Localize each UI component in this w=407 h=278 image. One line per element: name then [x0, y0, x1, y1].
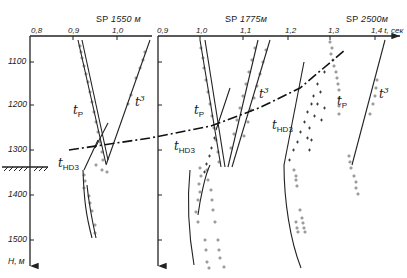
- panel-title-sp1550: SP 1550 м: [96, 14, 141, 24]
- x-tick: 1,4 t, сек: [371, 26, 403, 35]
- sp-distance: 1775м: [240, 14, 267, 24]
- depth-tick: 1300: [8, 144, 27, 154]
- x-tick: 0,9: [157, 26, 168, 35]
- depth-tick: 1400: [8, 189, 27, 199]
- ticks: [30, 36, 375, 240]
- x-tick: 1,3: [328, 26, 339, 35]
- x-tick: 1,1: [240, 26, 251, 35]
- sup: 3: [264, 86, 269, 95]
- sp-label: SP: [346, 14, 358, 24]
- reflector-hatch: [2, 167, 48, 171]
- curve-label-t3: t3: [135, 94, 145, 109]
- curve-label-thd3: tHD3: [58, 156, 79, 172]
- sub: HD3: [179, 146, 195, 155]
- axes: [30, 36, 400, 266]
- panel-title-sp2500: SP 2500м: [346, 14, 388, 24]
- x-tick: 0,9: [68, 26, 79, 35]
- curve-label-t3: t3: [379, 86, 389, 101]
- curve-label-tp: tP: [73, 103, 83, 119]
- x-tick: 1,2: [285, 26, 296, 35]
- vsp-figure: [0, 0, 407, 278]
- panel-sp1550-curves: [78, 40, 150, 238]
- curve-label-tp: tP: [194, 103, 204, 119]
- sp-label: SP: [225, 14, 237, 24]
- panel-sp2500-points: [293, 41, 378, 233]
- sub: HD3: [63, 163, 79, 172]
- x-tick: 1,0: [196, 26, 207, 35]
- panel-sp2500-curves: [284, 40, 385, 268]
- depth-tick: 1500: [8, 234, 27, 244]
- x-tick: 0,8: [31, 26, 42, 35]
- sp-distance: 1550 м: [111, 14, 141, 24]
- sup: 3: [384, 86, 389, 95]
- panel-sp1775-points: [195, 47, 267, 269]
- sup: 3: [140, 94, 145, 103]
- panel-title-sp1775: SP 1775м: [225, 14, 267, 24]
- curve-label-t3: t3: [259, 86, 269, 101]
- depth-tick: 1200: [8, 99, 27, 109]
- panel-sp1775-crosses: [203, 137, 216, 174]
- sub: HD3: [277, 125, 293, 134]
- sub: P: [78, 110, 83, 119]
- curve-label-thd3: tHD3: [174, 139, 195, 155]
- depth-axis-label: H, м: [8, 256, 25, 266]
- sub: P: [199, 110, 204, 119]
- depth-tick: 1100: [8, 56, 26, 66]
- sub: P: [342, 101, 347, 110]
- curve-label-tp: tP: [337, 94, 347, 110]
- sp-label: SP: [96, 14, 108, 24]
- panel-sp1775-curves: [188, 40, 270, 265]
- sp-distance: 2500м: [361, 14, 388, 24]
- curve-label-thd3: tHD3: [272, 118, 293, 134]
- x-tick: 1,0: [112, 26, 123, 35]
